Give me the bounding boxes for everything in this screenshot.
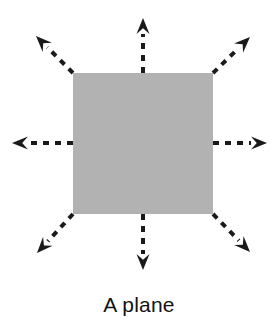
arrow-up-right-shaft bbox=[213, 48, 239, 73]
plane-square bbox=[73, 73, 213, 214]
arrow-down bbox=[137, 214, 150, 270]
arrow-up bbox=[137, 18, 150, 73]
arrow-down-head bbox=[137, 254, 150, 270]
arrow-down-right-shaft bbox=[213, 214, 239, 241]
arrow-down-left-shaft bbox=[48, 214, 73, 241]
plane-diagram-canvas bbox=[0, 0, 278, 324]
figure-caption: A plane bbox=[0, 292, 278, 318]
arrow-down-right bbox=[213, 214, 250, 252]
arrow-down-left bbox=[37, 214, 73, 253]
arrow-right-head bbox=[251, 137, 267, 150]
arrow-right bbox=[213, 137, 267, 150]
arrow-up-left-shaft bbox=[47, 47, 73, 73]
arrow-up-head bbox=[137, 18, 150, 34]
arrow-down-left-head bbox=[37, 237, 53, 253]
arrow-up-left-head bbox=[36, 36, 52, 52]
arrow-up-left bbox=[36, 36, 73, 73]
arrow-up-right-head bbox=[234, 37, 250, 53]
arrow-up-right bbox=[213, 37, 250, 73]
arrow-left-head bbox=[12, 137, 28, 150]
plane-diagram-figure: A plane bbox=[0, 0, 278, 324]
arrow-left bbox=[12, 137, 73, 150]
arrow-down-right-head bbox=[234, 236, 250, 252]
